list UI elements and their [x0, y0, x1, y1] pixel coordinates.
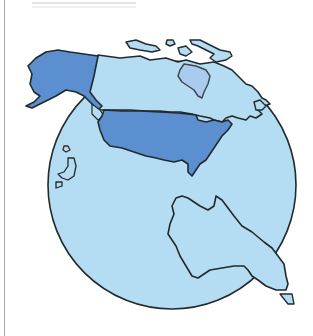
region-alaska	[26, 50, 102, 110]
region-baffin-fragment	[178, 46, 192, 56]
region-arctic-island-1	[126, 40, 160, 52]
globe-illustration	[0, 0, 313, 336]
region-arctic-island-3	[190, 40, 232, 62]
region-tasmania	[280, 294, 294, 304]
region-pacific-island-1	[63, 146, 70, 152]
region-arctic-island-2	[166, 40, 175, 46]
